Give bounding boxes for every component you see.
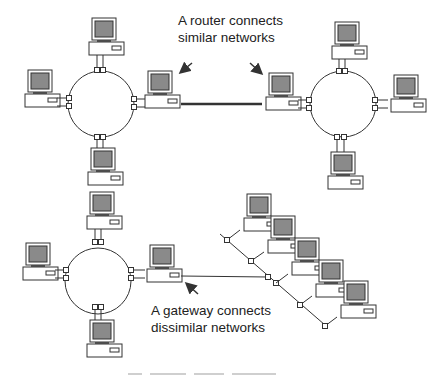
arrow-icon — [250, 63, 261, 73]
router-computer-icon — [266, 73, 301, 110]
network-diagram: A router connects similar networks A gat… — [0, 0, 438, 377]
computer-icon — [89, 18, 124, 55]
gateway-computer-icon — [147, 245, 182, 282]
computer-icon — [25, 70, 60, 107]
ring-network-top-right — [266, 22, 426, 189]
computer-icon — [341, 281, 376, 318]
gateway-link — [181, 276, 268, 277]
computer-icon — [87, 320, 122, 357]
gateway-label-line1: A gateway connects — [151, 302, 271, 319]
ring-network-top-left — [25, 18, 180, 185]
computer-icon — [88, 148, 123, 185]
router-label-line1: A router connects — [178, 12, 283, 29]
arrow-icon — [187, 284, 198, 294]
computer-icon — [328, 152, 363, 189]
gateway-label: A gateway connects dissimilar networks — [151, 302, 271, 336]
computer-icon — [391, 75, 426, 112]
computer-icon — [332, 22, 367, 59]
gateway-label-line2: dissimilar networks — [151, 319, 271, 336]
clipped-caption — [128, 373, 328, 377]
computer-icon — [87, 192, 122, 229]
computer-icon — [23, 243, 58, 280]
arrow-icon — [181, 63, 192, 72]
router-label: A router connects similar networks — [178, 12, 283, 46]
router-label-line2: similar networks — [178, 29, 283, 46]
router-computer-icon — [145, 71, 180, 108]
